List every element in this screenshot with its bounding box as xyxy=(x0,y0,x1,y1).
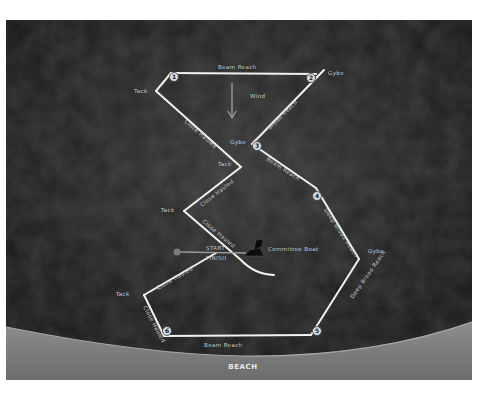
tack-label: Tack xyxy=(115,291,130,297)
mark-2: 2 xyxy=(307,74,316,83)
mark-1: 1 xyxy=(170,73,179,82)
finish-label: FINISH xyxy=(206,255,227,261)
svg-text:3: 3 xyxy=(255,142,259,149)
beach-label: BEACH xyxy=(228,363,258,371)
tack-label: Tack xyxy=(217,161,232,167)
course-canvas: BEACH Wind xyxy=(6,20,472,380)
mark-3: 3 xyxy=(253,142,262,151)
mark-4: 4 xyxy=(313,192,322,201)
committee-boat-label: Committee Boat xyxy=(268,246,319,252)
svg-text:1: 1 xyxy=(172,73,176,80)
gybe-label: Gybe xyxy=(328,70,344,77)
start-pin-buoy xyxy=(174,249,181,256)
leg-label: Beam Reach xyxy=(204,342,243,348)
mark-5: 5 xyxy=(313,327,322,336)
leg-label: Beam Reach xyxy=(218,64,257,70)
tack-label: Tack xyxy=(133,88,148,94)
gybe-label: Gybe xyxy=(230,139,246,146)
sailing-course-diagram: BEACH Wind xyxy=(6,20,472,380)
svg-text:2: 2 xyxy=(309,74,313,81)
wind-label: Wind xyxy=(250,93,265,99)
svg-text:4: 4 xyxy=(315,192,319,199)
svg-text:5: 5 xyxy=(315,327,319,334)
tack-label: Tack xyxy=(160,207,175,213)
start-label: START xyxy=(206,245,225,251)
svg-text:6: 6 xyxy=(165,327,169,334)
